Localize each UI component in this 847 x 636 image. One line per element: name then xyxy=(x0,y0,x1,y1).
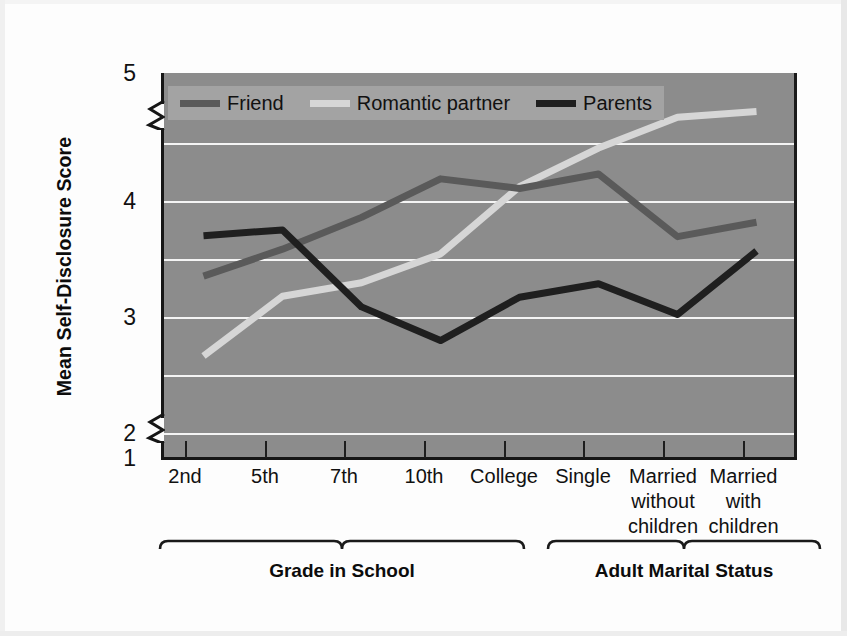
x-tick-1 xyxy=(265,441,267,458)
figure-border-top xyxy=(0,0,847,4)
x-tick-0 xyxy=(185,441,187,458)
y-tick-label-5: 5 xyxy=(110,60,136,87)
legend-swatch-romantic-partner xyxy=(310,100,350,107)
legend-label-romantic-partner: Romantic partner xyxy=(357,92,510,115)
plot-area xyxy=(164,73,796,458)
y-tick-label-3: 3 xyxy=(110,304,136,331)
bracket-grade-in-school xyxy=(160,541,524,549)
x-tick-label-2nd: 2nd xyxy=(145,464,225,489)
y-axis-break-upper-icon xyxy=(143,100,165,130)
x-tick-4 xyxy=(504,441,506,458)
legend-item-friend: Friend xyxy=(180,92,284,115)
y-axis-break-lower-icon xyxy=(143,413,165,443)
y-axis-line-middle xyxy=(161,128,164,418)
gridline-2_5 xyxy=(164,375,796,377)
gridline-4 xyxy=(164,201,796,203)
x-tick-2 xyxy=(344,441,346,458)
plot-frame-right xyxy=(794,73,797,460)
gridline-4_5 xyxy=(164,143,796,145)
x-tick-label-5th: 5th xyxy=(225,464,305,489)
x-tick-7 xyxy=(743,441,745,458)
x-tick-6 xyxy=(663,441,665,458)
x-tick-label-married-with-children: Married with children xyxy=(691,464,796,539)
bracket-label-grade-in-school: Grade in School xyxy=(160,560,524,582)
bracket-label-adult-marital-status: Adult Marital Status xyxy=(548,560,820,582)
x-tick-label-7th: 7th xyxy=(304,464,384,489)
legend-item-romantic-partner: Romantic partner xyxy=(310,92,510,115)
gridline-3 xyxy=(164,317,796,319)
y-tick-label-4: 4 xyxy=(110,188,136,215)
gridline-2 xyxy=(164,433,796,435)
x-tick-5 xyxy=(583,441,585,458)
x-axis-line xyxy=(161,457,797,460)
legend-label-parents: Parents xyxy=(583,92,652,115)
y-tick-label-2: 2 xyxy=(110,420,136,447)
bracket-adult-marital-status xyxy=(548,541,820,549)
gridline-3_5 xyxy=(164,259,796,261)
y-axis-title: Mean Self-Disclosure Score xyxy=(53,107,76,427)
legend-label-friend: Friend xyxy=(227,92,284,115)
legend-item-parents: Parents xyxy=(536,92,652,115)
figure-border-left xyxy=(0,0,5,636)
figure-border-bottom xyxy=(0,631,847,636)
chart-figure: Friend Romantic partner Parents 5 4 3 2 … xyxy=(0,0,847,636)
y-tick-label-1: 1 xyxy=(110,445,136,472)
legend-swatch-parents xyxy=(536,100,576,107)
x-tick-3 xyxy=(424,441,426,458)
legend-swatch-friend xyxy=(180,100,220,107)
legend: Friend Romantic partner Parents xyxy=(168,86,664,120)
figure-border-right xyxy=(841,0,847,636)
